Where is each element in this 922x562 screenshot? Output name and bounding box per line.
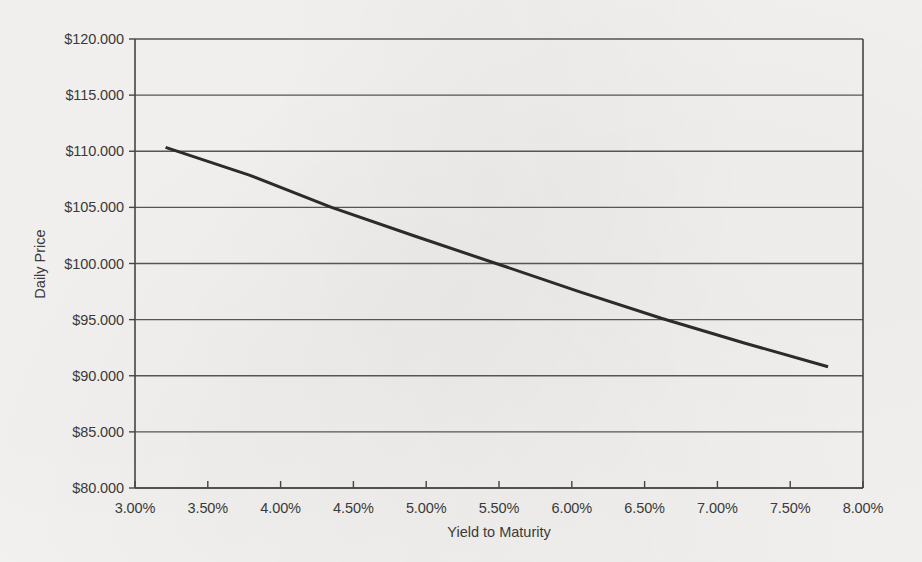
x-axis-tick-label: 5.50%	[479, 500, 520, 516]
x-axis-tick-label: 3.50%	[187, 500, 228, 516]
y-axis-tick-label: $95.000	[72, 312, 124, 328]
x-axis-tick-label: 5.00%	[406, 500, 447, 516]
data-series-line	[166, 147, 828, 366]
y-axis-ticks	[129, 39, 135, 488]
y-axis-tick-label: $120.000	[64, 31, 124, 47]
y-axis-tick-label: $90.000	[72, 368, 124, 384]
y-axis-tick-label: $100.000	[64, 256, 124, 272]
y-axis-tick-label: $115.000	[65, 87, 124, 103]
x-axis-tick-label: 6.00%	[551, 500, 592, 516]
y-axis-tick-label: $80.000	[72, 480, 124, 496]
x-axis-tick-label: 6.50%	[624, 500, 665, 516]
y-axis-tick-label: $110.000	[65, 143, 124, 159]
x-axis-tick-label: 3.00%	[115, 500, 156, 516]
series-line-daily-price	[166, 147, 828, 366]
x-axis-ticks	[135, 481, 863, 488]
x-axis-tick-label: 8.00%	[843, 500, 884, 516]
x-axis-tick-label: 4.00%	[260, 500, 301, 516]
y-axis-title: Daily Price	[32, 229, 48, 298]
x-axis-tick-label: 4.50%	[333, 500, 374, 516]
plot-area	[0, 0, 922, 562]
chart-figure: $120.000$115.000$110.000$105.000$100.000…	[0, 0, 922, 562]
x-axis-tick-label: 7.00%	[697, 500, 738, 516]
x-axis-title: Yield to Maturity	[447, 524, 550, 540]
y-axis-tick-label: $105.000	[64, 199, 124, 215]
y-axis-tick-label: $85.000	[72, 424, 124, 440]
x-axis-tick-label: 7.50%	[770, 500, 811, 516]
